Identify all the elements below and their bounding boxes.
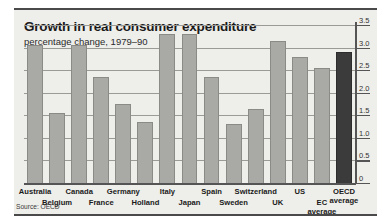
bar: [270, 41, 286, 183]
y-tick-label: 0: [359, 174, 363, 183]
bar: [137, 122, 153, 183]
bar: [159, 34, 175, 183]
bar: [71, 45, 87, 183]
bar: [248, 109, 264, 183]
y-tick-mark: [356, 48, 370, 49]
chart-title: Growth in real consumer expenditure: [24, 19, 256, 34]
y-tick-label: 3.5: [359, 16, 369, 25]
gridline: [24, 25, 355, 26]
bar: [314, 68, 330, 183]
y-tick-label: 0.5: [359, 151, 369, 160]
bar: [182, 34, 198, 183]
x-axis-label: OECDaverage: [312, 187, 376, 205]
y-tick-label: 3.0: [359, 39, 369, 48]
bottom-rule: [14, 214, 377, 216]
y-tick-label: 1.5: [359, 106, 369, 115]
y-tick-mark: [356, 138, 370, 139]
y-tick-label: 1.0: [359, 129, 369, 138]
x-axis-baseline: [24, 183, 356, 185]
bar: [49, 113, 65, 183]
bar: [226, 124, 242, 183]
bar: [336, 52, 352, 183]
bar: [115, 104, 131, 183]
chart-figure: Growth in real consumer expenditure perc…: [0, 0, 391, 224]
y-tick-mark: [356, 25, 370, 26]
y-tick-label: 2.5: [359, 61, 369, 70]
bar: [204, 77, 220, 183]
source-note: Source: OECD: [16, 203, 60, 210]
bar: [292, 57, 308, 183]
y-tick-mark: [356, 160, 370, 161]
y-tick-mark: [356, 93, 370, 94]
y-tick-mark: [356, 183, 370, 184]
y-axis-line: [355, 22, 357, 184]
y-tick-mark: [356, 70, 370, 71]
y-tick-mark: [356, 115, 370, 116]
y-tick-label: 2.0: [359, 84, 369, 93]
bar: [27, 45, 43, 183]
bar: [93, 77, 109, 183]
